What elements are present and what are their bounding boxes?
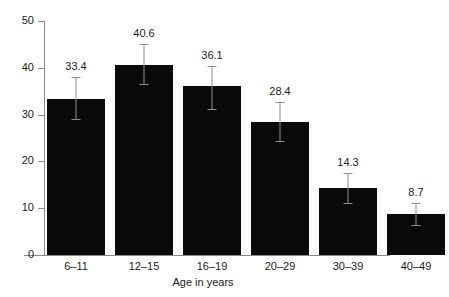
error-bar-cap-lower	[208, 109, 217, 110]
error-bar-cap-upper	[140, 44, 149, 45]
x-tick-label: 20–29	[245, 260, 315, 272]
y-tick-mark	[38, 255, 44, 256]
y-tick-label: 50	[6, 15, 34, 26]
bar-value-label: 8.7	[386, 187, 446, 198]
bar-group: 8.7	[387, 0, 445, 255]
bar-group: 33.4	[47, 0, 105, 255]
bar	[183, 86, 241, 255]
x-tick-label: 12–15	[109, 260, 179, 272]
error-bar	[144, 44, 145, 84]
error-bar-cap-upper	[412, 203, 421, 204]
bar-value-label: 40.6	[114, 28, 174, 39]
bar-value-label: 14.3	[318, 157, 378, 168]
y-tick-label: 20	[6, 155, 34, 166]
error-bar	[212, 66, 213, 109]
y-tick-label: 40	[6, 62, 34, 73]
bar-group: 36.1	[183, 0, 241, 255]
bar-value-label: 28.4	[250, 86, 310, 97]
error-bar-cap-lower	[72, 119, 81, 120]
y-tick-mark	[38, 161, 44, 162]
bar-group: 28.4	[251, 0, 309, 255]
y-tick-mark	[38, 68, 44, 69]
error-bar-cap-lower	[344, 203, 353, 204]
x-tick-label: 30–39	[313, 260, 383, 272]
y-tick-label: 0	[6, 249, 34, 260]
bar-group: 40.6	[115, 0, 173, 255]
y-tick-label: 10	[6, 202, 34, 213]
bar	[251, 122, 309, 255]
x-tick-label: 40–49	[381, 260, 449, 272]
x-tick-label: 16–19	[177, 260, 247, 272]
x-axis-line	[24, 255, 390, 256]
error-bar-cap-upper	[276, 102, 285, 103]
error-bar-cap-lower	[140, 84, 149, 85]
error-bar-cap-lower	[276, 141, 285, 142]
error-bar	[280, 102, 281, 140]
bar-value-label: 33.4	[46, 61, 106, 72]
error-bar-cap-lower	[412, 225, 421, 226]
error-bar	[348, 173, 349, 203]
error-bar-cap-upper	[72, 77, 81, 78]
error-bar	[76, 77, 77, 119]
y-axis-line	[44, 21, 45, 256]
y-tick-label: 30	[6, 109, 34, 120]
error-bar-cap-upper	[208, 66, 217, 67]
error-bar	[416, 203, 417, 225]
bar	[115, 65, 173, 255]
bar-group: 14.3	[319, 0, 377, 255]
bar	[47, 99, 105, 255]
x-axis-title: Age in years	[0, 276, 406, 288]
bar-value-label: 36.1	[182, 50, 242, 61]
y-tick-mark	[38, 115, 44, 116]
y-tick-mark	[38, 21, 44, 22]
x-tick-label: 6–11	[41, 260, 111, 272]
y-tick-mark	[38, 208, 44, 209]
error-bar-cap-upper	[344, 173, 353, 174]
